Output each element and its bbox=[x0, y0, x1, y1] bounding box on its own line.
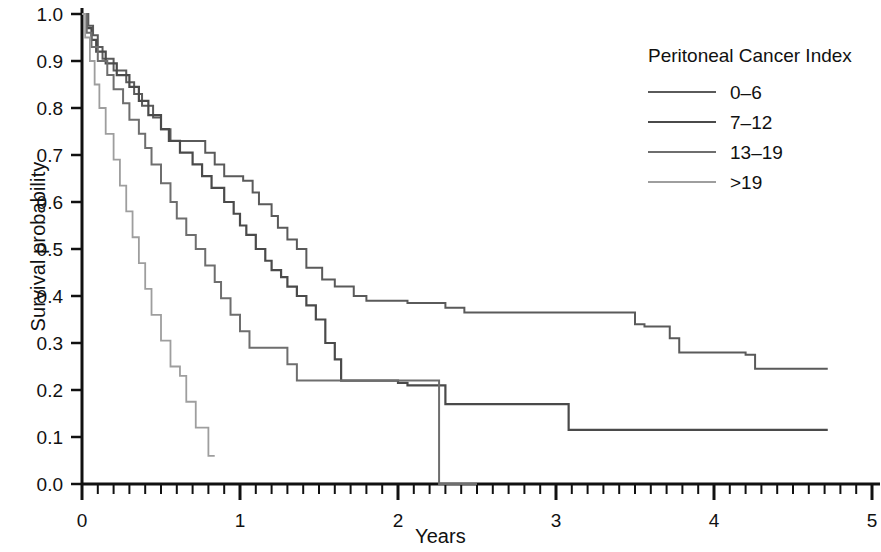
x-tick-label: 4 bbox=[709, 510, 720, 531]
y-tick-label: 0.9 bbox=[37, 51, 63, 72]
y-axis-ticks: 0.00.10.20.30.40.50.60.70.80.91.0 bbox=[37, 4, 82, 495]
y-tick-label: 1.0 bbox=[37, 4, 63, 25]
legend-title: Peritoneal Cancer Index bbox=[648, 45, 852, 66]
legend-label: 7–12 bbox=[730, 112, 772, 133]
survival-curve-0-6 bbox=[82, 14, 828, 369]
axis-lines bbox=[82, 8, 880, 484]
kaplan-meier-figure: Survival probability Years 0.00.10.20.30… bbox=[0, 0, 881, 552]
x-axis-ticks: 012345 bbox=[77, 484, 878, 531]
chart-legend: Peritoneal Cancer Index0–67–1213–19>19 bbox=[648, 45, 852, 193]
y-tick-label: 0.4 bbox=[37, 286, 64, 307]
survival-curve-7-12 bbox=[82, 14, 828, 430]
y-tick-label: 0.7 bbox=[37, 145, 63, 166]
x-tick-label: 3 bbox=[551, 510, 562, 531]
x-tick-label: 1 bbox=[235, 510, 246, 531]
legend-label: 0–6 bbox=[730, 82, 762, 103]
survival-curve-13-19 bbox=[82, 14, 477, 484]
legend-label: >19 bbox=[730, 172, 762, 193]
legend-label: 13–19 bbox=[730, 142, 783, 163]
survival-curves bbox=[82, 14, 828, 484]
y-tick-label: 0.6 bbox=[37, 192, 63, 213]
y-tick-label: 0.5 bbox=[37, 239, 63, 260]
x-tick-label: 2 bbox=[393, 510, 404, 531]
x-tick-label: 0 bbox=[77, 510, 88, 531]
survival-plot: 0.00.10.20.30.40.50.60.70.80.91.0 012345… bbox=[0, 0, 881, 552]
y-tick-label: 0.0 bbox=[37, 474, 63, 495]
x-tick-label: 5 bbox=[867, 510, 878, 531]
y-tick-label: 0.3 bbox=[37, 333, 63, 354]
y-tick-label: 0.1 bbox=[37, 427, 63, 448]
y-tick-label: 0.2 bbox=[37, 380, 63, 401]
y-tick-label: 0.8 bbox=[37, 98, 63, 119]
